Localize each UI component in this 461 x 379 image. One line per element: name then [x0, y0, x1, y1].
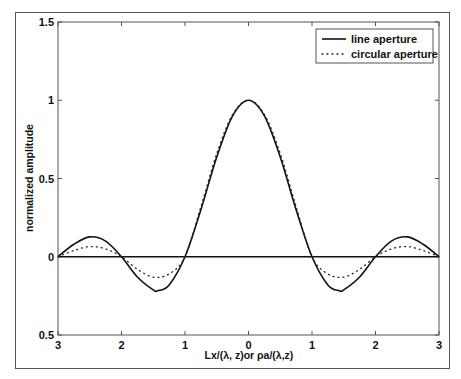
legend: line aperture circular aperture	[316, 29, 438, 63]
x-axis-label: Lx/(λ, z)or ρa/(λ,z)	[205, 349, 294, 361]
y-tick-label: 0	[48, 251, 54, 263]
x-tick-label: 3	[436, 339, 442, 351]
x-tick-label: 2	[372, 339, 378, 351]
y-tick-label: 0.5	[39, 329, 54, 341]
y-tick-label: 1	[48, 94, 54, 106]
plot-area	[58, 22, 439, 335]
y-axis-label: normalized amplitude	[23, 124, 35, 232]
y-tick-label: 1.5	[39, 16, 54, 28]
line-chart: 32101230.500.511.5 Lx/(λ, z)or ρa/(λ,z) …	[0, 0, 461, 379]
legend-label-line-aperture: line aperture	[351, 33, 417, 45]
legend-label-circular-aperture: circular aperture	[351, 48, 438, 60]
x-tick-label: 2	[118, 339, 124, 351]
series-line-aperture	[58, 100, 439, 291]
x-tick-label: 1	[309, 339, 315, 351]
y-tick-label: 0.5	[39, 173, 54, 185]
axis-ticks: 32101230.500.511.5	[39, 16, 442, 351]
x-tick-label: 3	[55, 339, 61, 351]
x-tick-label: 1	[182, 339, 188, 351]
